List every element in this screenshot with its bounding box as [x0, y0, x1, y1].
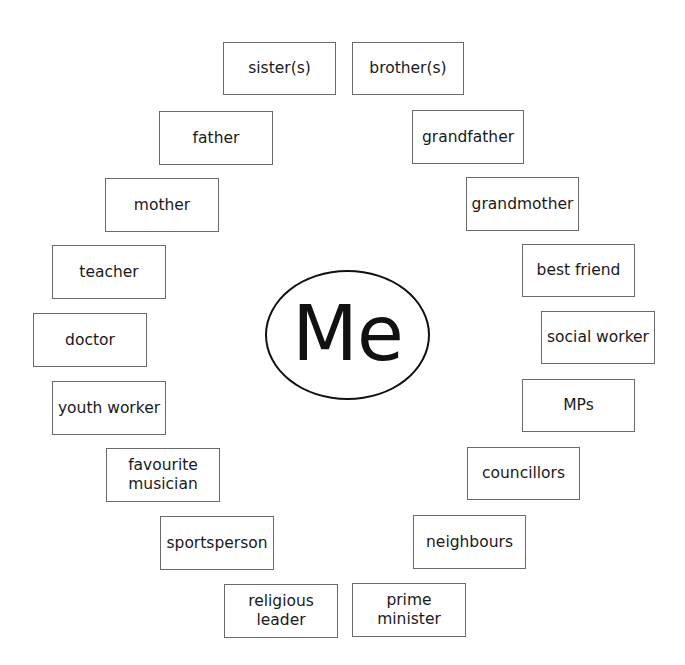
relation-box: prime minister: [352, 583, 466, 637]
relation-box: sportsperson: [160, 516, 274, 570]
relation-box: best friend: [522, 244, 635, 297]
relation-label: grandfather: [422, 128, 514, 147]
relation-box: social worker: [541, 311, 655, 364]
relation-box: neighbours: [413, 515, 526, 569]
relation-box: councillors: [467, 447, 580, 500]
relation-box: teacher: [52, 245, 166, 299]
relation-box: doctor: [33, 313, 147, 367]
relation-label: councillors: [482, 464, 565, 483]
relation-label: prime minister: [377, 591, 441, 629]
relation-box: father: [159, 111, 273, 165]
relation-label: favourite musician: [128, 456, 198, 494]
relation-label: best friend: [537, 261, 621, 280]
relation-label: social worker: [547, 328, 649, 347]
relation-box: religious leader: [224, 584, 338, 638]
relation-box: grandmother: [466, 177, 579, 231]
me-label: Me: [292, 296, 402, 372]
relation-box: mother: [105, 178, 219, 232]
relation-box: brother(s): [352, 42, 464, 95]
relation-label: youth worker: [58, 399, 160, 418]
relation-label: father: [193, 129, 240, 148]
relation-label: sportsperson: [166, 534, 267, 553]
relation-label: mother: [134, 196, 190, 215]
relation-label: teacher: [79, 263, 138, 282]
relation-box: MPs: [522, 379, 635, 432]
relation-label: doctor: [65, 331, 115, 350]
me-ellipse: Me: [265, 270, 430, 400]
relation-label: sister(s): [248, 59, 311, 78]
relation-label: neighbours: [426, 533, 513, 552]
relation-box: grandfather: [412, 110, 524, 164]
relation-box: youth worker: [52, 381, 166, 435]
relation-box: favourite musician: [106, 448, 220, 502]
relation-label: brother(s): [369, 59, 446, 78]
relation-box: sister(s): [223, 42, 336, 95]
relation-label: MPs: [563, 396, 594, 415]
relation-label: grandmother: [472, 195, 574, 214]
relation-label: religious leader: [248, 592, 314, 630]
